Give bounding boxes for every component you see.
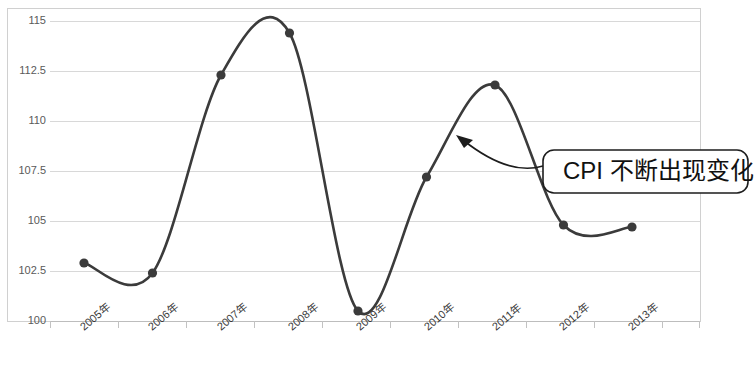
data-point-marker (490, 80, 499, 89)
y-tick-label: 100 (28, 314, 46, 326)
y-tick-label: 107.5 (18, 164, 46, 176)
chart-canvas: 115 112.5 110 107.5 105 102.5 100 2005年 … (0, 0, 754, 365)
data-point-marker (353, 306, 362, 315)
callout-label: CPI 不断出现变化 (563, 157, 754, 184)
y-tick-label: 110 (28, 114, 46, 126)
data-point-marker (422, 172, 431, 181)
y-tick-label: 105 (28, 214, 46, 226)
y-tick-label: 115 (28, 14, 46, 26)
data-point-marker (285, 28, 294, 37)
cpi-line-chart: 115 112.5 110 107.5 105 102.5 100 2005年 … (0, 0, 754, 365)
data-point-marker (79, 258, 88, 267)
data-point-marker (627, 222, 636, 231)
data-point-marker (559, 220, 568, 229)
callout-annotation[interactable]: CPI 不断出现变化 (543, 150, 754, 193)
data-point-marker (148, 268, 157, 277)
y-tick-label: 112.5 (19, 64, 46, 76)
y-tick-label: 102.5 (18, 264, 46, 276)
data-point-marker (216, 70, 225, 79)
